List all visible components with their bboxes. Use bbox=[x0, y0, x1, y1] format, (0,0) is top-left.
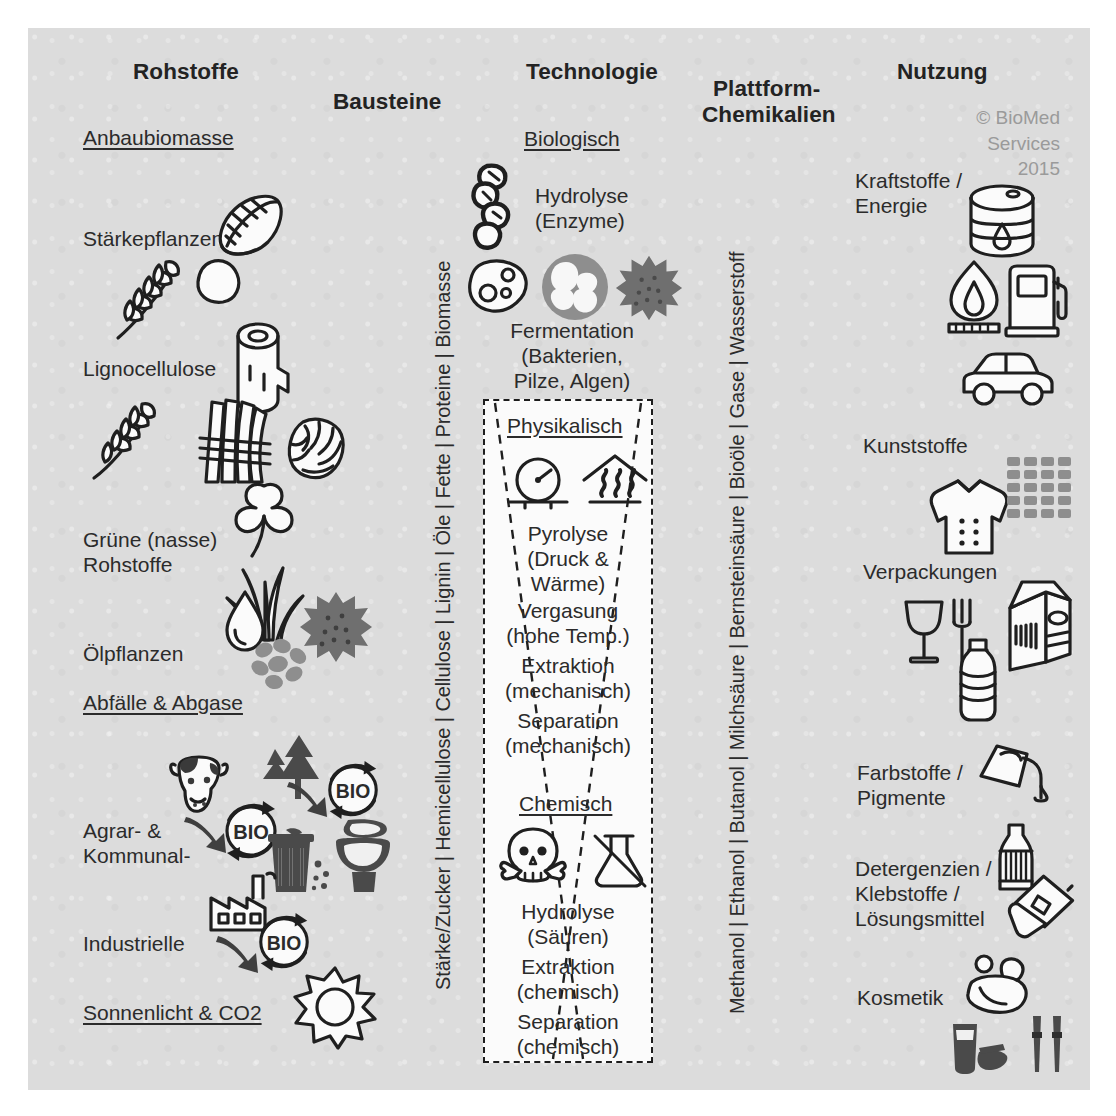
group-title-anbaubiomasse: Anbaubiomasse bbox=[83, 125, 234, 150]
shirt-icon bbox=[928, 477, 1010, 557]
diagram-root: Rohstoffe Bausteine Technologie Plattfor… bbox=[0, 0, 1116, 1116]
bio-cycle-icon-3: BIO bbox=[253, 912, 315, 972]
section-title-physikalisch: Physikalisch bbox=[507, 413, 623, 438]
entry-label-pyrolyse: Pyrolyse (Druck & Wärme) bbox=[488, 521, 648, 597]
item-label-verpackungen: Verpackungen bbox=[863, 559, 997, 584]
group-title-sonnenlicht-co2: Sonnenlicht & CO2 bbox=[83, 1000, 262, 1025]
mascara-icon bbox=[1025, 1014, 1069, 1076]
milk-carton-icon bbox=[1000, 578, 1078, 672]
copyright-line-2: Services bbox=[930, 131, 1060, 157]
bacterium-icon bbox=[466, 257, 532, 317]
group-title-abfaelle-abgase: Abfälle & Abgase bbox=[83, 690, 243, 715]
entry-label-vergasung: Vergasung (hohe Temp.) bbox=[488, 598, 648, 648]
oil-barrel-icon bbox=[963, 182, 1041, 260]
item-label-kosmetik: Kosmetik bbox=[857, 985, 943, 1010]
item-label-kunststoffe: Kunststoffe bbox=[863, 433, 968, 458]
item-label-kraftstoffe-energie: Kraftstoffe / Energie bbox=[855, 168, 962, 218]
fuel-pump-icon bbox=[1002, 262, 1072, 338]
flame-burner-icon bbox=[943, 260, 1005, 334]
bausteine-vertical-list: Stärke/Zucker | Hemicellulose | Cellulos… bbox=[432, 261, 455, 990]
wheat-ear-icon bbox=[110, 256, 190, 342]
toilet-icon bbox=[330, 818, 396, 894]
item-label-detergenzien: Detergenzien / Klebstoffe / Lösungsmitte… bbox=[855, 856, 992, 932]
column-header-technologie: Technologie bbox=[526, 58, 658, 85]
glue-stick-icon bbox=[1002, 874, 1076, 940]
entry-label-hydrolyse-enzyme: Hydrolyse (Enzyme) bbox=[535, 183, 628, 233]
car-icon bbox=[958, 350, 1056, 408]
corn-cob-icon bbox=[213, 190, 289, 264]
plastic-bottle-icon bbox=[953, 638, 1003, 722]
potato-icon bbox=[193, 258, 245, 306]
pressure-gauge-icon bbox=[505, 456, 571, 512]
item-label-industrielle: Industrielle bbox=[83, 931, 185, 956]
column-header-plattform-line1: Plattform- bbox=[713, 75, 820, 102]
item-label-agrar-kommunal: Agrar- & Kommunal- bbox=[83, 818, 190, 868]
skull-poison-icon bbox=[499, 827, 567, 889]
enzyme-chain-icon bbox=[465, 162, 527, 260]
yeast-cell-icon bbox=[540, 253, 610, 321]
section-title-chemisch: Chemisch bbox=[519, 791, 612, 816]
straw-bundle-icon bbox=[192, 398, 276, 484]
svg-text:BIO: BIO bbox=[267, 932, 301, 954]
item-label-staerkepflanzen: Stärkepflanzen bbox=[83, 226, 223, 251]
sunflower-seed-burst-icon bbox=[298, 590, 374, 664]
paint-can-icon bbox=[975, 742, 1053, 802]
plastic-granulate-icon bbox=[1005, 455, 1075, 521]
column-header-nutzung: Nutzung bbox=[897, 58, 988, 85]
cream-tube-icon bbox=[945, 1022, 1011, 1076]
item-label-lignocellulose: Lignocellulose bbox=[83, 356, 216, 381]
flask-crossed-out-icon bbox=[589, 830, 651, 892]
column-header-bausteine: Bausteine bbox=[333, 88, 441, 115]
soap-foam-icon bbox=[962, 954, 1040, 1018]
algae-burst-icon bbox=[614, 254, 684, 322]
wheat-stalk-icon bbox=[90, 400, 172, 482]
heat-oven-icon bbox=[580, 452, 650, 514]
entry-label-extraktion-mechanisch: Extraktion (mechanisch) bbox=[488, 653, 648, 703]
entry-label-separation-mechanisch: Separation (mechanisch) bbox=[488, 708, 648, 758]
entry-label-hydrolyse-saeuren: Hydrolyse (Säuren) bbox=[488, 899, 648, 949]
sun-icon bbox=[292, 966, 378, 1050]
entry-label-extraktion-chemisch: Extraktion (chemisch) bbox=[488, 954, 648, 1004]
clover-icon bbox=[228, 480, 300, 560]
hop-cone-icon bbox=[285, 416, 351, 484]
item-label-gruene-rohstoffe: Grüne (nasse) Rohstoffe bbox=[83, 527, 217, 577]
section-title-biologisch: Biologisch bbox=[524, 126, 620, 151]
entry-label-separation-chemisch: Separation (chemisch) bbox=[488, 1009, 648, 1059]
bio-cycle-icon-2: BIO bbox=[322, 760, 384, 820]
svg-text:BIO: BIO bbox=[336, 780, 370, 802]
item-label-oelpflanzen: Ölpflanzen bbox=[83, 641, 183, 666]
column-header-plattform-line2: Chemikalien bbox=[702, 101, 836, 128]
copyright-line-1: © BioMed bbox=[930, 105, 1060, 131]
plattform-vertical-list: Methanol | Ethanol | Butanol | Milchsäur… bbox=[726, 252, 749, 1014]
entry-label-fermentation: Fermentation (Bakterien, Pilze, Algen) bbox=[487, 318, 657, 394]
column-header-rohstoffe: Rohstoffe bbox=[133, 58, 239, 85]
item-label-farbstoffe-pigmente: Farbstoffe / Pigmente bbox=[857, 760, 963, 810]
